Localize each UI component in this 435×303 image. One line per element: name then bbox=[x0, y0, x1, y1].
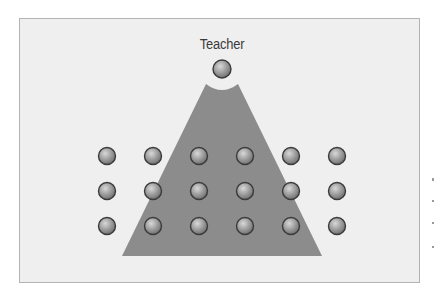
student-icon bbox=[329, 218, 346, 235]
edge-artifact bbox=[432, 246, 434, 248]
student-icon bbox=[237, 218, 254, 235]
student-icon bbox=[191, 218, 208, 235]
student-icon bbox=[191, 148, 208, 165]
edge-artifact bbox=[432, 200, 434, 202]
student-icon bbox=[283, 218, 300, 235]
student-icon bbox=[145, 148, 162, 165]
student-icon bbox=[237, 183, 254, 200]
teacher-icon bbox=[213, 60, 231, 78]
student-icon bbox=[99, 183, 116, 200]
student-icon bbox=[145, 183, 162, 200]
student-icon bbox=[329, 148, 346, 165]
student-icon bbox=[99, 218, 116, 235]
student-icon bbox=[283, 148, 300, 165]
student-icon bbox=[329, 183, 346, 200]
student-icon bbox=[99, 148, 116, 165]
teacher-label: Teacher bbox=[18, 36, 426, 52]
edge-artifact bbox=[432, 222, 434, 224]
student-icon bbox=[237, 148, 254, 165]
student-icon bbox=[191, 183, 208, 200]
edge-artifact bbox=[432, 178, 434, 181]
student-icon bbox=[145, 218, 162, 235]
student-icon bbox=[283, 183, 300, 200]
